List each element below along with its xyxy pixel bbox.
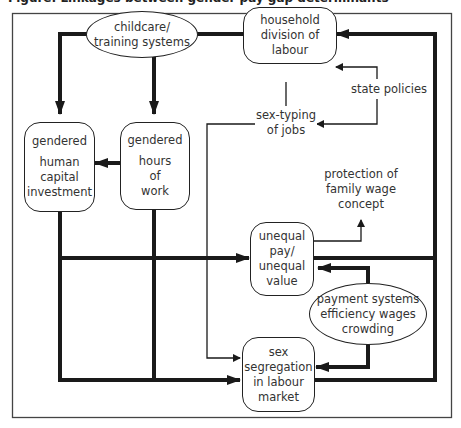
hci-line1: gendered <box>32 134 87 149</box>
protection-line3: concept <box>338 197 384 212</box>
payment-line2: efficiency wages <box>320 307 416 322</box>
protection-line1: protection of <box>324 167 398 182</box>
hours-line2: hours <box>139 154 171 169</box>
gendered-human-capital-investment-node: gendered human capital investment <box>24 122 95 212</box>
childcare-label-line1: childcare/ <box>114 20 170 35</box>
segregation-line4: market <box>258 390 299 405</box>
segregation-line3: in labour <box>253 375 304 390</box>
segregation-line1: sex <box>269 345 289 360</box>
sex-typing-line2: of jobs <box>267 123 305 138</box>
unequal-pay-unequal-value-node: unequal pay/ unequal value <box>250 222 314 296</box>
hci-line3: capital <box>40 170 79 185</box>
protection-line2: family wage <box>326 182 396 197</box>
segregation-line2: segregation <box>244 360 312 375</box>
payment-line1: payment systems <box>317 292 419 307</box>
payment-systems-efficiency-wages-crowding-node: payment systems efficiency wages crowdin… <box>309 283 427 345</box>
unequal-line2: pay/ <box>269 244 294 259</box>
sex-segregation-in-labour-market-node: sex segregation in labour market <box>242 337 315 412</box>
household-label-line3: labour <box>272 43 309 58</box>
hci-line4: investment <box>27 185 92 200</box>
unequal-line4: value <box>266 274 297 289</box>
protection-of-family-wage-concept-label: protection of family wage concept <box>320 165 402 213</box>
hours-line4: work <box>141 184 169 199</box>
childcare-training-systems-node: childcare/ training systems <box>86 11 198 58</box>
hci-line2: human <box>39 155 79 170</box>
sex-typing-of-jobs-label: sex-typing of jobs <box>255 106 317 140</box>
unequal-line3: unequal <box>259 259 305 274</box>
state-policies-label: state policies <box>345 80 433 98</box>
childcare-label-line2: training systems <box>94 35 190 50</box>
household-label-line1: household <box>260 13 320 28</box>
unequal-line1: unequal <box>259 229 305 244</box>
hours-line1: gendered <box>128 133 183 148</box>
gendered-hours-of-work-node: gendered hours of work <box>120 122 190 210</box>
hours-line3: of <box>149 169 160 184</box>
payment-line3: crowding <box>342 322 394 337</box>
sex-typing-line1: sex-typing <box>256 108 316 123</box>
household-division-of-labour-node: household division of labour <box>243 7 337 64</box>
diagram-connectors <box>0 0 461 428</box>
household-label-line2: division of <box>261 28 320 43</box>
